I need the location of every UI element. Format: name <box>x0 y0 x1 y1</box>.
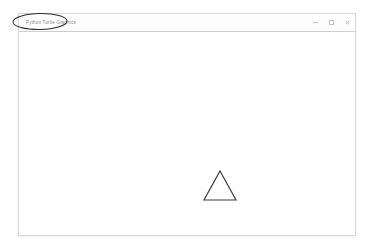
close-button[interactable] <box>339 14 355 32</box>
window-controls <box>307 14 355 31</box>
triangle-shape <box>204 171 236 200</box>
turtle-drawing-canvas[interactable] <box>20 34 354 234</box>
turtle-canvas-svg <box>20 34 354 234</box>
minimize-button[interactable] <box>307 14 323 32</box>
close-icon <box>345 20 350 25</box>
title-bar[interactable]: Python Turtle Graphics <box>19 14 355 32</box>
maximize-button[interactable] <box>323 14 339 32</box>
minimize-icon <box>313 22 318 23</box>
maximize-icon <box>329 20 334 25</box>
window-title: Python Turtle Graphics <box>19 20 76 25</box>
turtle-graphics-window[interactable]: Python Turtle Graphics <box>18 13 356 236</box>
